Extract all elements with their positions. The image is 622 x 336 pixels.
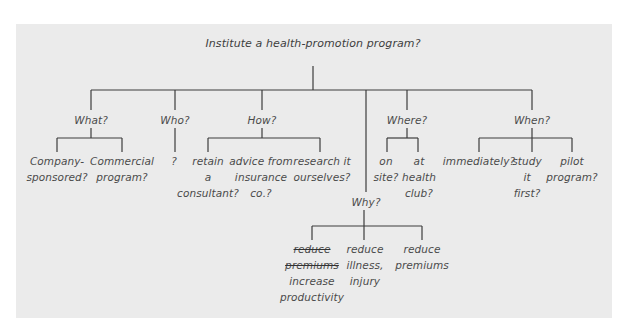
branch-who-label: Who? xyxy=(160,112,189,128)
option-line: site? xyxy=(373,169,398,185)
option-line: club? xyxy=(402,185,436,201)
what-option-commercial-program: Commercial program? xyxy=(90,153,154,185)
what-option-company-sponsored: Company- sponsored? xyxy=(26,153,87,185)
option-line: premiums xyxy=(395,257,449,273)
option-line: ? xyxy=(171,153,177,169)
option-line: sponsored? xyxy=(26,169,87,185)
option-line: program? xyxy=(546,169,597,185)
where-option-on-site: on site? xyxy=(373,153,398,185)
option-line: research it xyxy=(293,153,350,169)
option-line: pilot xyxy=(546,153,597,169)
option-line: reduce xyxy=(347,241,384,257)
option-line: Company- xyxy=(26,153,87,169)
option-line: advice from xyxy=(229,153,293,169)
struck-line: reduce xyxy=(280,241,344,257)
when-option-study-first: study it first? xyxy=(512,153,542,201)
option-line: immediately? xyxy=(443,153,515,169)
option-line: first? xyxy=(512,185,542,201)
option-line: it xyxy=(512,169,542,185)
why-option-reduce-illness: reduce illness, injury xyxy=(347,241,384,289)
option-line: study xyxy=(512,153,542,169)
branch-where-label: Where? xyxy=(387,112,427,128)
how-option-insurance-advice: advice from insurance co.? xyxy=(229,153,293,201)
option-line: program? xyxy=(90,169,154,185)
option-line: insurance xyxy=(229,169,293,185)
option-line: on xyxy=(373,153,398,169)
option-line: ourselves? xyxy=(293,169,350,185)
branch-how-label: How? xyxy=(248,112,277,128)
option-line: injury xyxy=(347,273,384,289)
option-line: reduce xyxy=(395,241,449,257)
branch-why-label: Why? xyxy=(351,194,380,210)
why-option-reduce-premiums: reduce premiums xyxy=(395,241,449,273)
when-option-pilot-program: pilot program? xyxy=(546,153,597,185)
branch-when-label: When? xyxy=(514,112,550,128)
how-option-research-ourselves: research it ourselves? xyxy=(293,153,350,185)
struck-line: premiums xyxy=(280,257,344,273)
option-line: at xyxy=(402,153,436,169)
option-line: co.? xyxy=(229,185,293,201)
option-line: increase xyxy=(280,273,344,289)
who-option-unknown: ? xyxy=(171,153,177,169)
option-line: Commercial xyxy=(90,153,154,169)
where-option-health-club: at health club? xyxy=(402,153,436,201)
option-line: health xyxy=(402,169,436,185)
option-line: illness, xyxy=(347,257,384,273)
why-option-increase-productivity: reduce premiums increase productivity xyxy=(280,241,344,305)
when-option-immediately: immediately? xyxy=(443,153,515,169)
branch-what-label: What? xyxy=(74,112,108,128)
root-question: Institute a health-promotion program? xyxy=(205,36,420,52)
option-line: productivity xyxy=(280,289,344,305)
